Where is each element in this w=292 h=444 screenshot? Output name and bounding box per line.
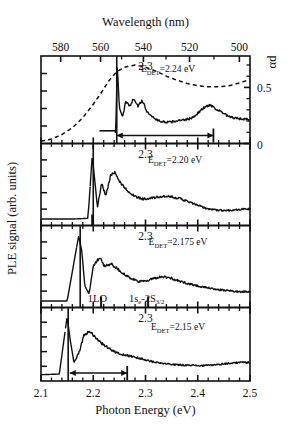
right-axis-tick-label: 0.5	[257, 82, 272, 94]
stokes-arrow-panel-1-head-left	[117, 133, 123, 139]
detection-energy-label-4: EDET=2.15 eV	[151, 322, 205, 334]
ple-spectra-figure: 580560540520500Wavelength (nm)2.12.22.32…	[0, 0, 292, 444]
svg-text:EDET=2.20 eV: EDET=2.20 eV	[148, 155, 202, 167]
bottom-axis-tick-label: 2.4	[191, 387, 206, 399]
bottom-axis-tick-label: 2.5	[243, 387, 258, 399]
peak-label-1lo: 1LO	[88, 293, 108, 304]
absorption-curve	[41, 65, 250, 141]
bottom-axis-tick-label: 2.1	[34, 387, 49, 399]
top-axis-tick-label: 560	[92, 41, 110, 53]
bottom-axis-tick-label: 2.2	[86, 387, 101, 399]
top-axis-tick-label: 520	[181, 41, 199, 53]
ple-baseline	[41, 332, 65, 375]
top-axis-tick-label: 500	[231, 41, 249, 53]
right-axis-tick-label: 0	[257, 139, 263, 151]
ple-baseline	[41, 187, 90, 219]
right-axis-title: αd	[265, 55, 279, 69]
bottom-axis-title: Photon Energy (eV)	[95, 403, 195, 417]
figure-canvas: 580560540520500Wavelength (nm)2.12.22.32…	[0, 0, 292, 444]
bottom-axis-tick-label: 2.3	[138, 387, 153, 399]
top-axis-title: Wavelength (nm)	[102, 15, 189, 29]
top-axis-tick-label: 580	[52, 41, 70, 53]
stokes-arrow-panel-4-head-left	[70, 370, 76, 376]
peak-label-1se-2s32: 1se-2S3/2	[129, 293, 164, 306]
detection-energy-label-2: EDET=2.20 eV	[148, 155, 202, 167]
ple-trace-panel-2	[90, 158, 250, 211]
top-axis-tick-label: 540	[135, 41, 153, 53]
svg-text:EDET=2.175 eV: EDET=2.175 eV	[149, 237, 208, 249]
detection-energy-label-3: EDET=2.175 eV	[149, 237, 208, 249]
left-axis-title: PLE signal (arb. units)	[5, 162, 19, 275]
ple-trace-panel-1	[115, 68, 250, 132]
svg-text:EDET=2.15 eV: EDET=2.15 eV	[151, 322, 205, 334]
